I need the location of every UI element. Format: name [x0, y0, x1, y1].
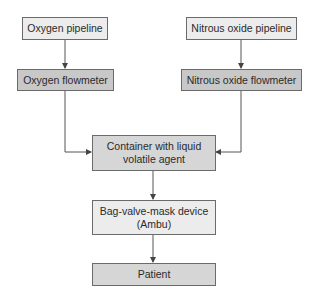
node-label: Oxygen flowmeter: [23, 74, 108, 87]
node-label: Oxygen pipeline: [27, 22, 102, 35]
arrow-oxygen-flowmeter-to-container: [65, 90, 91, 152]
node-label-line2: (Ambu): [137, 218, 171, 231]
node-label: Nitrous oxide flowmeter: [187, 74, 297, 87]
node-label-line2: volatile agent: [123, 153, 185, 166]
node-oxygen-flowmeter: Oxygen flowmeter: [17, 69, 114, 91]
node-label: Patient: [138, 268, 171, 281]
node-label-line1: Container with liquid: [107, 140, 202, 153]
node-patient: Patient: [92, 263, 216, 286]
node-label: Nitrous oxide pipeline: [191, 22, 291, 35]
node-oxygen-pipeline: Oxygen pipeline: [22, 17, 108, 40]
node-container-volatile-agent: Container with liquid volatile agent: [92, 135, 216, 171]
node-label-line1: Bag-valve-mask device: [100, 205, 209, 218]
node-nitrous-oxide-flowmeter: Nitrous oxide flowmeter: [181, 69, 302, 91]
arrow-nitrous-flowmeter-to-container: [216, 90, 241, 152]
node-nitrous-oxide-pipeline: Nitrous oxide pipeline: [186, 17, 297, 40]
node-bag-valve-mask: Bag-valve-mask device (Ambu): [92, 200, 216, 235]
